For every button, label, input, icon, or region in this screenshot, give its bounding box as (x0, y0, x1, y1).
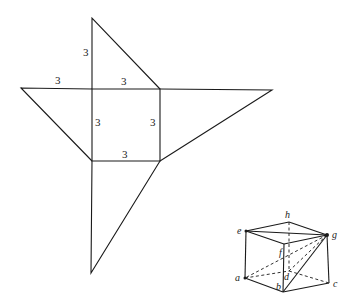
cube-figure: e h g f a d b c (235, 209, 338, 292)
cube-line-gb (283, 235, 327, 292)
vertex-label-f: f (279, 247, 283, 258)
vertex-dot-e (245, 230, 248, 233)
vertex-label-a: a (235, 272, 240, 283)
vertex-label-e: e (237, 225, 242, 236)
cube-edge-bc (283, 283, 329, 292)
cube-diagonal-eg (246, 231, 327, 235)
vertex-dot-g (325, 233, 329, 237)
pyramid-net-and-cube-diagram: 3 3 3 3 3 3 e h g f a d (0, 0, 359, 308)
edge-label-square-top: 3 (121, 75, 127, 87)
net-left-triangle (21, 88, 92, 161)
edge-label-square-left: 3 (95, 116, 101, 128)
vertex-label-g: g (332, 229, 337, 240)
vertex-label-c: c (333, 278, 338, 289)
cube-edge-ea (245, 231, 246, 278)
vertex-label-b: b (276, 281, 281, 292)
vertex-dot-a (244, 277, 247, 280)
cube-edge-fb (283, 244, 284, 292)
edge-label-square-right: 3 (150, 116, 156, 128)
edge-label-left-top: 3 (55, 74, 61, 86)
edge-label-square-bottom: 3 (122, 148, 128, 160)
vertex-label-h: h (285, 209, 290, 220)
vertex-label-d: d (284, 271, 290, 282)
cube-edge-gc (327, 235, 329, 283)
net-bottom-triangle (91, 161, 160, 273)
net-figure: 3 3 3 3 3 3 (21, 18, 272, 273)
cube-edge-eh (246, 222, 289, 231)
cube-line-gd (289, 235, 327, 271)
edge-label-top-left: 3 (83, 46, 89, 58)
net-right-triangle (160, 89, 272, 161)
